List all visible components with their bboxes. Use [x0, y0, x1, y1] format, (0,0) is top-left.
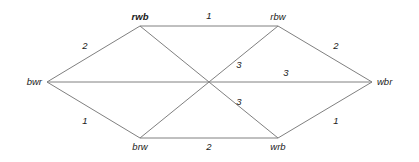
edge-weight-label: 1: [82, 115, 87, 126]
graph-canvas: bwrrwbrbwwbrbrwwrb 212121333: [0, 0, 419, 162]
graph-node-label: wrb: [270, 141, 285, 152]
graph-node-label: rwb: [132, 11, 149, 22]
graph-edge: [278, 26, 372, 82]
graph-node-label: rbw: [270, 11, 286, 22]
edge-weight-label: 3: [236, 59, 242, 70]
edge-weight-label: 2: [205, 141, 212, 152]
edge-weight-label: 3: [236, 96, 242, 107]
graph-edge: [278, 82, 372, 138]
edge-weight-label: 2: [332, 40, 339, 51]
graph-diagram: bwrrwbrbwwbrbrwwrb 212121333: [0, 0, 419, 162]
graph-node-label: bwr: [27, 76, 43, 87]
edge-weight-label: 3: [283, 67, 289, 78]
edge-weight-label: 2: [81, 40, 88, 51]
graph-node-label: brw: [132, 141, 148, 152]
edge-weight-label: 1: [206, 10, 211, 21]
edge-weight-label: 1: [333, 115, 338, 126]
graph-edge: [47, 82, 140, 138]
graph-edge: [47, 26, 140, 82]
edges-group: [47, 26, 372, 138]
graph-node-label: wbr: [377, 76, 393, 87]
